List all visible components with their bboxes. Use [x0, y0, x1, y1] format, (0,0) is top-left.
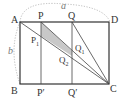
label-d: D [111, 15, 118, 25]
geometry-figure [0, 0, 123, 100]
shaded-region [41, 22, 72, 56]
label-c: C [110, 84, 117, 94]
label-p-prime: P′ [37, 88, 45, 98]
label-q-prime: Q′ [68, 88, 77, 98]
label-p1: P1 [31, 36, 39, 47]
label-p: P [38, 11, 44, 21]
label-b-vertex: B [11, 86, 18, 96]
label-b-length: b [8, 46, 13, 56]
label-q1: Q1 [75, 44, 85, 55]
label-q: Q [68, 11, 75, 21]
label-a-length: a [61, 1, 66, 11]
label-a-vertex: A [11, 15, 18, 25]
label-q2: Q2 [59, 56, 69, 67]
diagonal-ac [20, 22, 109, 84]
